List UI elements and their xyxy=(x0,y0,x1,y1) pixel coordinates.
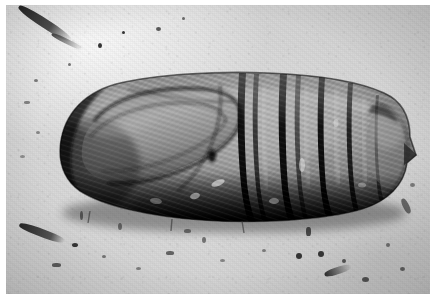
pupa-illustration xyxy=(6,5,430,294)
specimen-layer xyxy=(6,5,430,294)
figure-root xyxy=(0,0,437,300)
photographic-plate xyxy=(6,5,430,294)
